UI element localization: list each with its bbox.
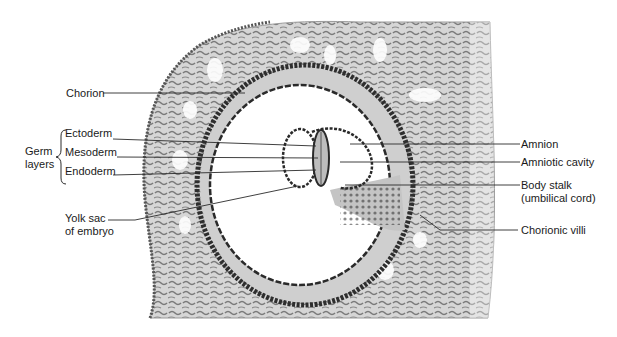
label-chorion: Chorion: [66, 87, 105, 100]
label-body-stalk: Body stalk (umbilical cord): [521, 179, 596, 205]
label-amnion: Amnion: [521, 138, 558, 151]
label-endoderm: Endoderm: [65, 165, 116, 178]
label-yolk-sac: Yolk sac of embryo: [65, 212, 114, 238]
label-ectoderm: Ectoderm: [65, 127, 112, 140]
label-mesoderm: Mesoderm: [65, 146, 117, 159]
label-germ-layers: Germ layers: [25, 145, 54, 171]
label-amniotic-cavity: Amniotic cavity: [521, 156, 594, 169]
label-chorionic-villi: Chorionic villi: [521, 224, 586, 237]
